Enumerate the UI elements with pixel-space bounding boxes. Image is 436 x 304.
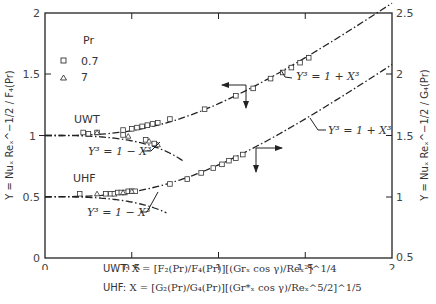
square-marker-icon: [77, 191, 82, 196]
y-axis-title-left: Y = Nuₓ Reₓ^−1/2 / F₄(Pr): [4, 70, 15, 201]
y-right-tick-2: 2: [396, 68, 403, 81]
eq-uwt-plus: Y³ = 1 + X³: [296, 70, 359, 83]
square-marker-icon: [268, 76, 273, 81]
square-marker-icon: [220, 162, 225, 167]
square-marker-icon: [121, 133, 126, 138]
caption-uwt-formula: X = [F₂(Pr)/F₄(Pr)][(Grₓ cos γ)/Reₓ²]^1/…: [132, 263, 337, 274]
legend: Pr 0.7 7: [61, 34, 99, 84]
square-marker-icon: [140, 124, 145, 129]
square-marker-icon: [240, 152, 245, 157]
y-left-tick-0.5: 0.5: [23, 191, 41, 204]
y-left-tick-2: 2: [33, 7, 40, 20]
caption-uhf-formula: X = [G₂(Pr)/G₄(Pr)][(Gr*ₓ cos γ)/Reₓ^5/2…: [129, 282, 361, 293]
label-uwt: UWT: [74, 113, 100, 126]
square-marker-icon: [81, 130, 86, 135]
eq-uwt-minus: Y³ = 1 − X³: [88, 145, 151, 158]
legend-label-sq: 0.7: [81, 55, 99, 68]
square-marker-icon: [298, 60, 303, 65]
square-marker-icon: [150, 122, 155, 127]
eq-uhf-plus: Y³ = 1 + X³: [328, 124, 391, 137]
square-marker-icon: [145, 123, 150, 128]
square-marker-icon: [211, 166, 216, 171]
square-marker-icon: [135, 125, 140, 130]
caption-uwt-prefix: UWT:: [103, 263, 129, 274]
square-marker-icon: [306, 55, 311, 60]
caption-uhf-prefix: UHF:: [103, 282, 126, 293]
leader-lines: [140, 70, 326, 212]
x-axis: [132, 13, 306, 258]
square-marker-icon: [155, 120, 160, 125]
triangle-marker-icon: [61, 75, 67, 80]
square-marker-icon: [185, 177, 190, 182]
y-tick-labels-right: 0.5 1 1.5 2 2.5: [396, 7, 414, 264]
square-marker-icon: [202, 107, 207, 112]
square-marker-icon: [289, 65, 294, 70]
triangle-marker-icon: [94, 191, 99, 196]
square-marker-icon: [234, 93, 239, 98]
square-marker-icon: [227, 158, 232, 163]
square-marker-icon: [168, 117, 173, 122]
y-right-tick-1.5: 1.5: [396, 130, 414, 143]
y-left-tick-1: 1: [29, 130, 36, 143]
y-left-tick-1.5: 1.5: [23, 68, 41, 81]
legend-label-tri: 7: [81, 71, 88, 84]
y-right-tick-0.5: 0.5: [396, 251, 414, 264]
square-marker-icon: [129, 127, 134, 132]
y-right-tick-1: 1: [396, 191, 403, 204]
caption-uwt: UWT: X = [F₂(Pr)/F₄(Pr)][(Grₓ cos γ)/Reₓ…: [103, 263, 337, 274]
curves: [45, 3, 392, 213]
square-marker-icon: [86, 131, 91, 136]
square-marker-icon: [234, 156, 239, 161]
square-marker-icon: [121, 128, 126, 133]
y-left-tick-0: 0: [33, 252, 40, 265]
chart: 0 0.5 1 1.5 2 0 0.5 1 1.5 2 0.5 1 1.5 2 …: [0, 0, 436, 270]
square-marker-icon: [251, 86, 256, 91]
y-tick-labels-left: 0 0.5 1 1.5 2: [23, 7, 41, 265]
triangle-marker-icon: [126, 134, 131, 139]
square-marker-icon: [199, 171, 204, 176]
square-marker-icon: [168, 182, 173, 187]
legend-title: Pr: [83, 34, 94, 47]
square-marker-icon: [61, 58, 66, 63]
x-tick-2: 2: [389, 262, 396, 270]
x-tick-0: 0: [42, 262, 49, 270]
y-axis-title-right: Y = Nuₓ Reₓ^−1/2 / G₄(Pr): [419, 69, 430, 202]
y-right-tick-2.5: 2.5: [396, 7, 414, 20]
caption-uhf: UHF: X = [G₂(Pr)/G₄(Pr)][(Gr*ₓ cos γ)/Re…: [103, 282, 362, 293]
label-uhf: UHF: [73, 172, 96, 185]
square-marker-icon: [103, 191, 108, 196]
